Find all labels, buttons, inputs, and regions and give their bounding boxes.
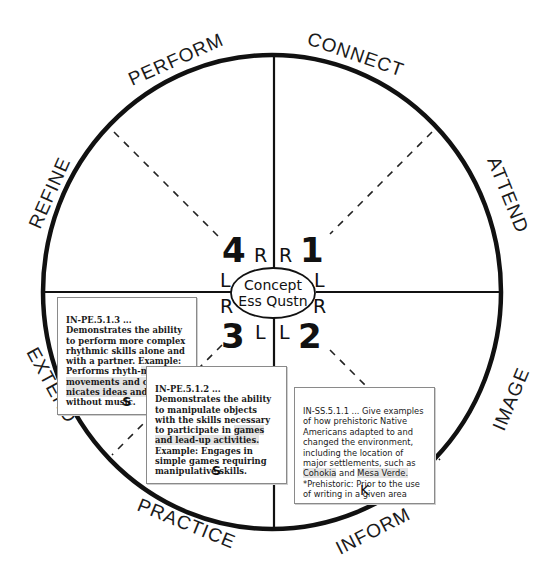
letter-q2-left: L <box>279 321 290 343</box>
letter-q4-bottom: L <box>220 269 231 291</box>
ring-label-perform: PERFORM <box>125 29 227 90</box>
ring-label-refine: REFINE <box>24 154 74 232</box>
diagonal-ne <box>330 132 432 234</box>
quadrant-number-3: 3 <box>221 316 245 356</box>
letter-q1-bottom: L <box>314 269 325 291</box>
standard-card-in-pe-5-1-2: IN-PE.5.1.2 ... Demonstrates the ability… <box>146 366 287 484</box>
concept-wheel-diagram: PERFORM CONNECT ATTEND IMAGE INFORM PRAC… <box>0 0 543 580</box>
highlighted-text-mesa-verde: Mesa Verde. <box>357 468 408 478</box>
quadrant-number-1: 1 <box>300 230 324 270</box>
ring-label-image: IMAGE <box>488 364 533 433</box>
letter-q4-right: R <box>254 244 267 266</box>
standard-code: IN-PE.5.1.3 <box>66 315 120 325</box>
standard-card-in-ss-5-1-1: IN-SS.5.1.1 ... Give examples of how pre… <box>294 387 435 504</box>
ring-label-inform: INFORM <box>332 503 414 558</box>
svg-text:IMAGE: IMAGE <box>488 364 533 433</box>
highlighted-text-cohokia: Cohokia <box>303 468 336 478</box>
standard-code: IN-SS.5.1.1 <box>303 406 349 416</box>
quadrant-number-2: 2 <box>298 316 322 356</box>
letter-q3-right: L <box>255 321 266 343</box>
standard-code: IN-PE.5.1.2 <box>155 384 209 394</box>
card-description-mid: and <box>336 468 357 478</box>
center-line-2: Ess Qustn <box>238 293 307 309</box>
svg-text:REFINE: REFINE <box>24 154 74 232</box>
svg-text:PERFORM: PERFORM <box>125 29 227 90</box>
card-tag: K <box>295 482 434 498</box>
letter-q1-left: R <box>279 244 292 266</box>
card-tag: S <box>147 463 286 478</box>
svg-text:INFORM: INFORM <box>332 503 414 558</box>
center-line-1: Concept <box>244 277 302 293</box>
quadrant-number-4: 4 <box>222 230 246 270</box>
diagonal-nw <box>114 132 222 240</box>
